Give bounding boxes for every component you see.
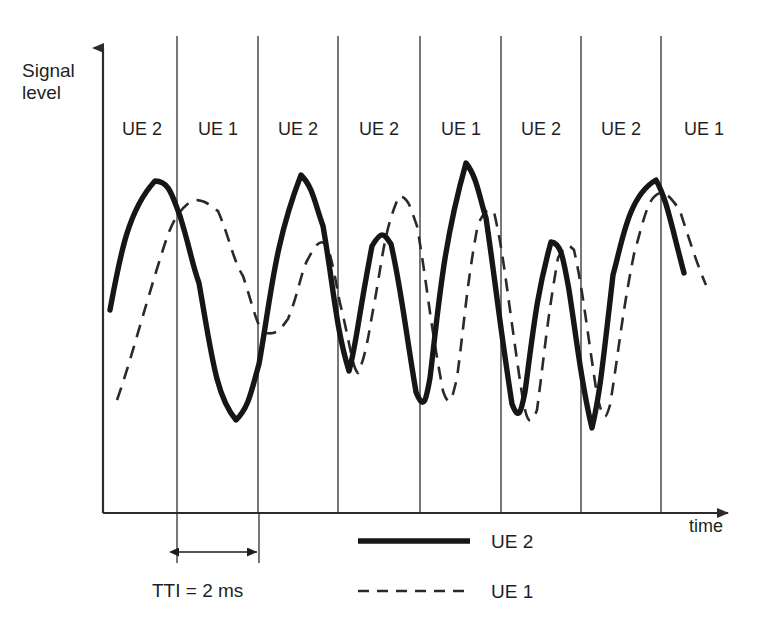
y-axis-label: Signal level [22, 60, 75, 104]
y-axis-label-line1: Signal [22, 60, 75, 82]
diagram-canvas [0, 0, 758, 631]
slot-label-4: UE 1 [429, 119, 493, 140]
legend-label-ue1: UE 1 [491, 581, 533, 603]
tti-annotation [177, 513, 259, 563]
slot-label-1: UE 1 [186, 119, 250, 140]
slot-label-5: UE 2 [509, 119, 573, 140]
slot-label-2: UE 2 [266, 119, 330, 140]
tti-annotation-label: TTI = 2 ms [152, 580, 243, 602]
slot-label-6: UE 2 [589, 119, 653, 140]
legend-marks [358, 541, 470, 591]
legend-label-ue2: UE 2 [491, 531, 533, 553]
signal-level-time-diagram: Signal level time UE 2 UE 1 UE 2 UE 2 UE… [0, 0, 758, 631]
slot-label-0: UE 2 [110, 119, 174, 140]
slot-label-3: UE 2 [347, 119, 411, 140]
y-axis-label-line2: level [22, 82, 75, 104]
x-axis-label: time [689, 516, 723, 537]
slot-dividers [177, 36, 661, 513]
slot-label-7: UE 1 [672, 119, 736, 140]
